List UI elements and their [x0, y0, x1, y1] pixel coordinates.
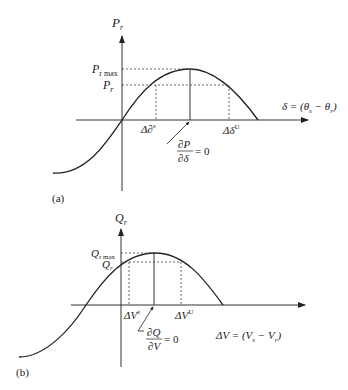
- panel-b: Qr Qr max Qr ΔVs ΔVU ΔV = (Vs − Vr) ∂Q ∂…: [16, 211, 305, 379]
- deriv-eq-b: = 0: [164, 333, 179, 345]
- unstable-point-label-a: ΔδU: [222, 123, 240, 136]
- panel-a: Pr Pr max Pr δ = (θs − θr) Δ∂s ΔδU ∂P ∂δ…: [52, 15, 337, 205]
- y-axis-label-a: Pr: [111, 15, 124, 32]
- deriv-den-b: ∂V: [148, 340, 161, 352]
- panel-tag-b: (b): [16, 366, 29, 379]
- deriv-num-b: ∂Q: [147, 326, 160, 338]
- x-axis-label-a: δ = (θs − θr): [282, 100, 337, 115]
- panel-tag-a: (a): [52, 192, 65, 205]
- pmax-label: Pr max: [91, 62, 118, 78]
- deriv-num-a: ∂P: [178, 138, 190, 150]
- unstable-point-label-b: ΔVU: [174, 308, 193, 321]
- x-axis-label-b: ΔV = (Vs − Vr): [215, 329, 281, 344]
- pr-label: Pr: [102, 78, 114, 94]
- y-axis-label-b: Qr: [115, 211, 128, 227]
- stable-point-label-b: ΔVs: [123, 308, 140, 321]
- deriv-eq-a: = 0: [195, 145, 210, 157]
- pv-qv-diagram: Pr Pr max Pr δ = (θs − θr) Δ∂s ΔδU ∂P ∂δ…: [0, 0, 348, 390]
- deriv-den-a: ∂δ: [178, 152, 189, 164]
- stable-point-label-a: Δ∂s: [140, 122, 156, 135]
